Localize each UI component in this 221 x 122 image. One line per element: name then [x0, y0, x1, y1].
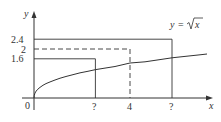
- y-tick-1.6: 1.6: [11, 53, 24, 64]
- origin-label: 0: [25, 100, 30, 111]
- sqrt-function-diagram: 2.4 2 1.6 0 ? 4 ? x y y = x: [0, 0, 221, 122]
- function-equals: =: [178, 19, 184, 30]
- function-rhs: x: [194, 19, 200, 30]
- x-tick-4: 4: [127, 101, 132, 112]
- x-axis-label: x: [208, 100, 214, 111]
- y-axis-label: y: [23, 8, 29, 19]
- y-axis-arrow-icon: [32, 11, 37, 18]
- diagram-svg: 2.4 2 1.6 0 ? 4 ? x y y = x: [0, 0, 221, 122]
- function-label: y = x: [169, 18, 203, 30]
- function-lhs: y: [169, 19, 175, 30]
- x-tick-second-unknown: ?: [169, 101, 174, 112]
- x-tick-first-unknown: ?: [92, 101, 97, 112]
- sqrt-curve: [34, 54, 207, 98]
